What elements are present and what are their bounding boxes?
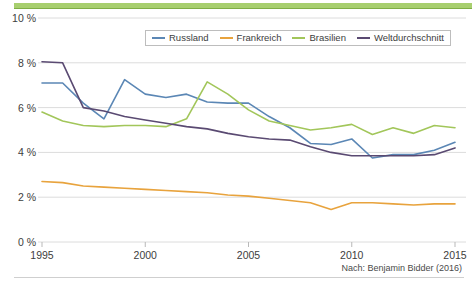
x-tick-label-2010: 2010	[332, 250, 372, 261]
series-line-russland	[42, 80, 455, 158]
y-tick-label-8: 8 %	[0, 58, 36, 69]
legend-item-weltdurchschnitt[interactable]: Weltdurchschnitt	[357, 33, 444, 43]
series-line-brasilien	[42, 82, 455, 135]
series-line-weltdurchschnitt	[42, 62, 455, 156]
legend-swatch-icon-russland	[152, 37, 165, 39]
legend-label: Weltdurchschnitt	[374, 33, 444, 43]
x-tick-label-2005: 2005	[229, 250, 269, 261]
legend-label: Brasilien	[309, 33, 345, 43]
legend-swatch-icon-brasilien	[292, 37, 305, 39]
x-tick-label-2015: 2015	[435, 250, 472, 261]
y-tick-label-10: 10 %	[0, 13, 36, 24]
legend-item-russland[interactable]: Russland	[152, 33, 209, 43]
y-tick-label-0: 0 %	[0, 237, 36, 248]
legend-swatch-icon-frankreich	[220, 37, 233, 39]
legend-label: Russland	[169, 33, 209, 43]
chart-page: 10 %8 %6 %4 %2 %0 % 19952000200520102015…	[0, 0, 472, 286]
x-tick-label-2000: 2000	[125, 250, 165, 261]
y-tick-label-4: 4 %	[0, 147, 36, 158]
series-line-frankreich	[42, 182, 455, 210]
y-tick-label-2: 2 %	[0, 192, 36, 203]
legend-item-frankreich[interactable]: Frankreich	[220, 33, 282, 43]
legend-label: Frankreich	[237, 33, 282, 43]
bottom-rule	[14, 277, 464, 278]
legend-swatch-icon-weltdurchschnitt	[357, 37, 370, 39]
source-note: Nach: Benjamin Bidder (2016)	[341, 263, 462, 273]
legend-item-brasilien[interactable]: Brasilien	[292, 33, 345, 43]
y-tick-label-6: 6 %	[0, 103, 36, 114]
x-tick-label-1995: 1995	[22, 250, 62, 261]
chart-legend: RusslandFrankreichBrasilienWeltdurchschn…	[145, 30, 451, 46]
